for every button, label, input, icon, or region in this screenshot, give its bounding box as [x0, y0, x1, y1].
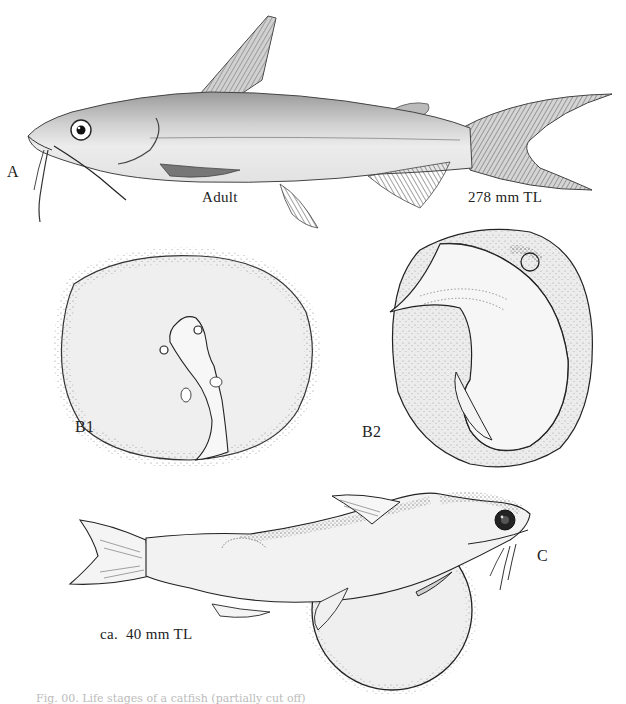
panel-label-b2: B2 — [362, 423, 381, 441]
size-label-larva: ca. 40 mm TL — [100, 626, 192, 643]
egg-b1-illustration — [61, 256, 312, 460]
figure-caption: Fig. 00. Life stages of a catfish (parti… — [36, 693, 596, 704]
larva-c-illustration — [70, 493, 530, 690]
panel-label-b1: B1 — [75, 418, 94, 436]
stage-label-adult: Adult — [202, 189, 238, 206]
figure-plate — [0, 0, 626, 704]
egg-b2-illustration — [390, 229, 592, 466]
size-label-adult: 278 mm TL — [468, 189, 542, 206]
panel-label-c: C — [537, 547, 548, 565]
panel-label-a: A — [7, 163, 19, 181]
